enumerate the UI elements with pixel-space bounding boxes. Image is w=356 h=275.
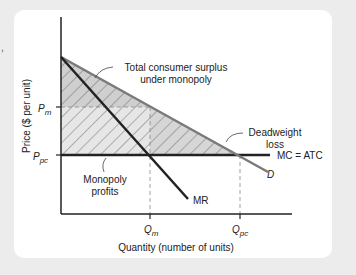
deadweight-label-line2: loss: [266, 139, 284, 150]
consumer-surplus-label-line2: under monopoly: [140, 74, 212, 85]
deadweight-pointer: [226, 133, 243, 142]
mc-atc-label: MC = ATC: [277, 150, 323, 161]
demand-label: D: [267, 169, 274, 180]
x-axis-label: Quantity (number of units): [118, 242, 234, 253]
profits-label-line1: Monopoly: [83, 174, 126, 185]
profits-label-line2: profits: [91, 186, 118, 197]
qpc-label: Qpc: [232, 224, 248, 238]
monopoly-diagram: Price ($ per unit) Pm Ppc Qm Qpc Quantit…: [0, 0, 356, 275]
pm-label: Pm: [38, 103, 52, 117]
mr-label: MR: [193, 195, 209, 206]
y-axis-label: Price ($ per unit): [21, 79, 32, 153]
deadweight-label-line1: Deadweight: [249, 127, 302, 138]
qm-label: Qm: [144, 224, 159, 238]
ppc-label: Ppc: [33, 151, 48, 165]
consumer-surplus-label-line1: Total consumer surplus: [125, 62, 228, 73]
profits-pointer: [103, 158, 106, 172]
